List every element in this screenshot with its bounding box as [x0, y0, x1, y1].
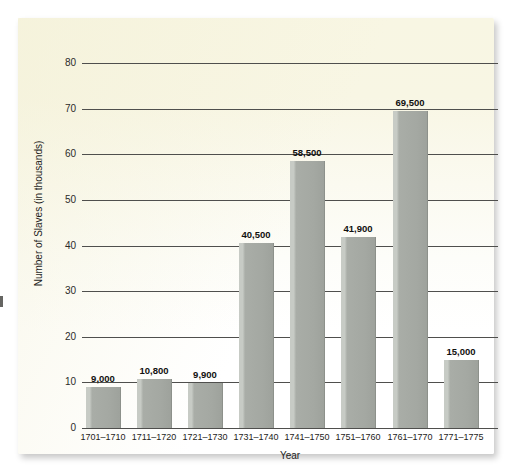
bar-1751-1760[interactable] [341, 237, 376, 428]
x-tick-label-1771-1775: 1771–1775 [430, 432, 492, 442]
bar-1721-1730[interactable] [188, 383, 223, 428]
bar-1741-1750[interactable] [290, 161, 325, 428]
chart-panel: Number of Slaves (in thousands) 80 70 60 [18, 18, 494, 454]
bar-1711-1720[interactable] [137, 379, 172, 428]
bar-value-label-1771-1775: 15,000 [431, 347, 491, 357]
chart-figure: Number of Slaves (in thousands) 80 70 60 [0, 0, 523, 475]
x-axis-title: Year [82, 450, 498, 461]
bar-1701-1710[interactable] [86, 387, 121, 428]
scan-edge-artifact [0, 296, 3, 307]
gridline-0 [82, 428, 498, 429]
bar-value-label-1721-1730: 9,900 [175, 370, 235, 380]
bar-1761-1770[interactable] [393, 111, 428, 428]
bar-1731-1740[interactable] [239, 243, 274, 428]
bar-1771-1775[interactable] [444, 360, 479, 428]
bar-value-label-1741-1750: 58,500 [277, 148, 337, 158]
bar-value-label-1731-1740: 40,500 [226, 230, 286, 240]
bars-layer [18, 18, 494, 428]
bar-value-label-1761-1770: 69,500 [380, 98, 440, 108]
bar-value-label-1751-1760: 41,900 [328, 224, 388, 234]
